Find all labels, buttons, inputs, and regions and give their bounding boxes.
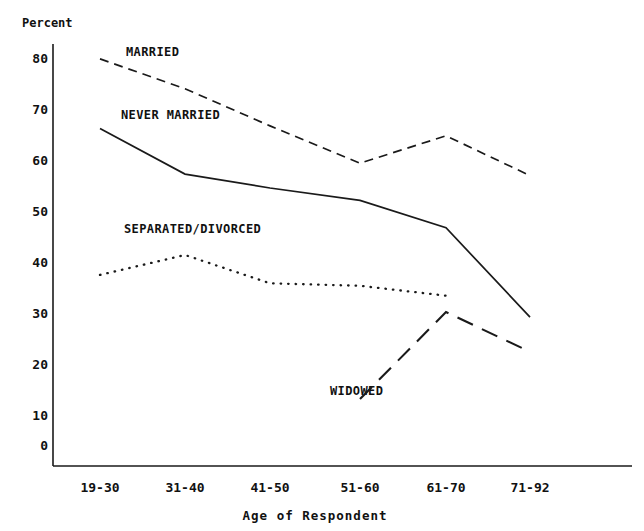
line-chart: Percent 80 70 60 50 40 30 20 10 0 19-30 …	[0, 0, 644, 531]
series-line-widowed	[360, 312, 530, 399]
plot-area	[0, 0, 644, 531]
series-line-separated-divorced	[100, 255, 446, 296]
series-line-married	[100, 59, 530, 176]
series-line-never-married	[100, 128, 530, 317]
